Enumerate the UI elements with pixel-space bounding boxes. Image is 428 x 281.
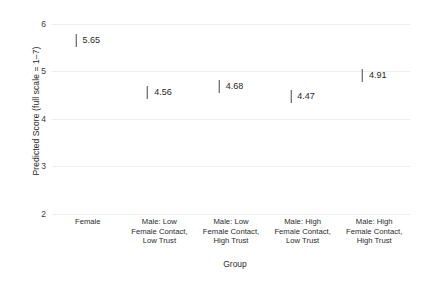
y-axis-tick-label: 3 <box>41 161 46 171</box>
x-axis-tick-label-line: Male: High <box>264 217 342 227</box>
x-axis-tick-label: Male: LowFemale Contact,High Trust <box>192 217 270 246</box>
x-axis-tick-label: Male: HighFemale Contact,High Trust <box>335 217 413 246</box>
y-axis-tick-label: 5 <box>41 66 46 76</box>
x-axis-tick-label-line: Female Contact, <box>192 227 270 237</box>
gridline: 6 <box>52 24 410 25</box>
x-axis-tick-label-line: High Trust <box>335 236 413 246</box>
x-axis-tick-label-line: Female Contact, <box>335 227 413 237</box>
x-axis-tick-label-line: Female Contact, <box>264 227 342 237</box>
data-point: 4.47 <box>290 89 315 103</box>
data-point-value-label: 4.47 <box>297 92 315 101</box>
x-axis-tick-label-line: Male: Low <box>120 217 198 227</box>
data-point: 5.65 <box>76 33 101 47</box>
data-point-value-label: 4.91 <box>369 71 387 80</box>
data-point-value-label: 5.65 <box>83 36 101 45</box>
data-point-value-label: 4.68 <box>226 82 244 91</box>
x-axis-tick-label-line: Male: Low <box>192 217 270 227</box>
x-axis-tick-label-line: Low Trust <box>120 236 198 246</box>
predicted-score-chart: Predicted Score (full scale = 1–7) 23456… <box>0 0 428 281</box>
data-point: 4.91 <box>362 68 387 82</box>
x-axis-tick-label-line: Female <box>49 217 127 227</box>
y-axis-tick-label: 6 <box>41 19 46 29</box>
data-point-marker-icon <box>147 86 148 99</box>
x-axis-tick-label-line: High Trust <box>192 236 270 246</box>
y-axis-title: Predicted Score (full scale = 1–7) <box>31 21 41 201</box>
x-axis-tick-label: Male: HighFemale Contact,Low Trust <box>264 217 342 246</box>
plot-area: 234565.654.564.684.474.91 <box>52 14 410 214</box>
data-point-marker-icon <box>219 80 220 93</box>
gridline: 4 <box>52 119 410 120</box>
gridline: 5 <box>52 71 410 72</box>
gridline: 3 <box>52 166 410 167</box>
x-axis-tick-label: Male: LowFemale Contact,Low Trust <box>120 217 198 246</box>
data-point: 4.68 <box>219 79 244 93</box>
data-point-marker-icon <box>362 69 363 82</box>
x-axis-tick-label-line: Low Trust <box>264 236 342 246</box>
gridline: 2 <box>52 214 410 215</box>
data-point-marker-icon <box>76 34 77 47</box>
y-axis-tick-label: 2 <box>41 209 46 219</box>
data-point-value-label: 4.56 <box>154 88 172 97</box>
x-axis-tick-label-line: Male: High <box>335 217 413 227</box>
y-axis-tick-label: 4 <box>41 114 46 124</box>
x-axis-tick-label: Female <box>49 217 127 227</box>
x-axis-title: Group <box>195 259 275 269</box>
data-point-marker-icon <box>290 90 291 103</box>
x-axis-tick-label-line: Female Contact, <box>120 227 198 237</box>
data-point: 4.56 <box>147 85 172 99</box>
x-axis-tick-labels: FemaleMale: LowFemale Contact,Low TrustM… <box>52 217 410 255</box>
